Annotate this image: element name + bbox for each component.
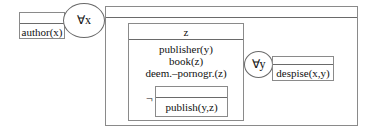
condition-publisher: publisher(y) (129, 43, 243, 55)
condition-book: book(z) (129, 55, 243, 67)
negated-universe-divider (156, 97, 227, 98)
forall-y-label: ∀y (252, 57, 266, 72)
left-drs-box: author(x) (19, 12, 65, 39)
condition-publish: publish(y,z) (156, 101, 227, 113)
universe-divider (20, 23, 64, 24)
quantifier-y-ellipse: ∀y (244, 51, 273, 78)
universe-z: z (129, 26, 243, 38)
outer-universe-divider (106, 17, 357, 18)
forall-x-label: ∀x (77, 13, 91, 28)
consequent-universe-divider (273, 64, 333, 65)
antecedent-universe-divider (129, 39, 243, 40)
quantifier-x-ellipse: ∀x (63, 3, 105, 38)
condition-despise: despise(x,y) (273, 67, 333, 79)
negated-drs-box: publish(y,z) (155, 86, 228, 117)
negation-symbol: ¬ (146, 93, 153, 105)
consequent-drs-box: despise(x,y) (272, 56, 334, 81)
condition-author: author(x) (20, 26, 64, 38)
condition-deemed-pornographic: deem.–pornogr.(z) (129, 67, 243, 79)
